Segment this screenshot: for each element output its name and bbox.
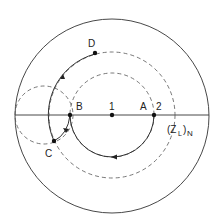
svg-text:(Z: (Z <box>167 124 176 135</box>
point-2 <box>152 113 156 117</box>
solid-arc-2-to-B <box>70 115 154 157</box>
label-A: A <box>140 101 147 112</box>
label-D: D <box>88 38 95 49</box>
point-D <box>93 51 97 55</box>
point-C <box>52 139 56 143</box>
svg-text:): ) <box>183 124 186 135</box>
svg-text:N: N <box>187 129 193 138</box>
point-B <box>68 113 72 117</box>
svg-text:L: L <box>178 130 182 137</box>
label-1: 1 <box>109 101 115 112</box>
smith-chart-diagram: D B 1 A 2 C (Z L ) N <box>0 0 216 222</box>
label-B: B <box>76 101 83 112</box>
label-2: 2 <box>156 101 162 112</box>
arrow-icon <box>111 155 117 160</box>
label-zl-normalized: (Z L ) N <box>167 124 193 138</box>
label-C: C <box>45 148 52 159</box>
point-1 <box>110 113 114 117</box>
solid-arc-B-to-C <box>54 115 70 141</box>
